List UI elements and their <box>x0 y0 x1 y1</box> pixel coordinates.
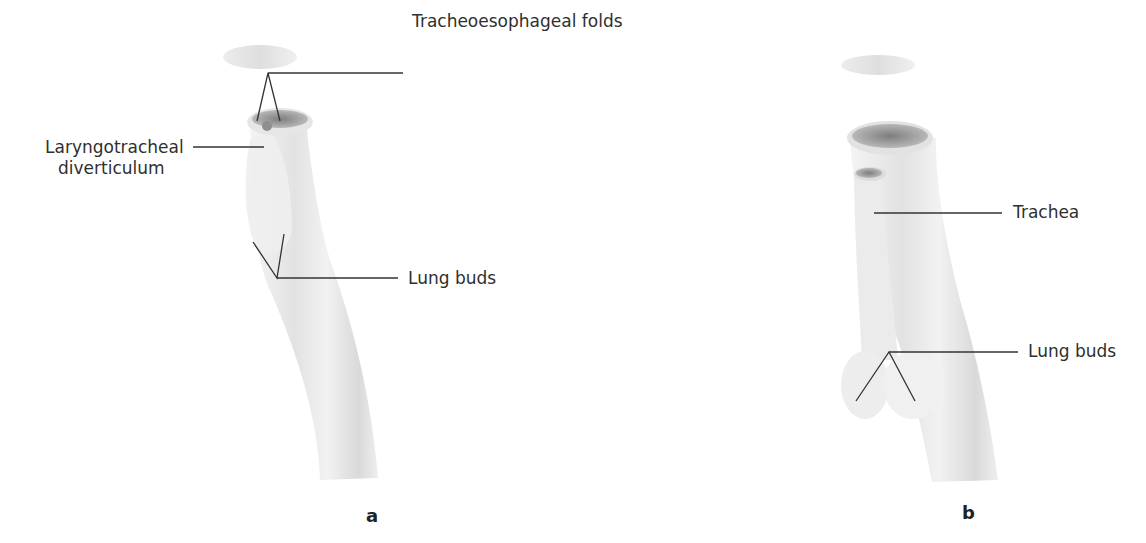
lung-bud-left-b <box>841 351 889 419</box>
esophagus-lumen-b <box>852 124 928 148</box>
label-lung-buds-b: Lung buds <box>1028 341 1116 362</box>
pharynx-cap-b <box>841 55 915 75</box>
pharynx-cap-a <box>223 45 297 69</box>
label-laryngotracheal-line2: diverticulum <box>58 158 165 179</box>
label-laryngotracheal-line1: Laryngotracheal <box>45 137 184 158</box>
panel-letter-a: a <box>366 505 378 526</box>
panel-b-illustration <box>841 55 998 482</box>
label-tracheoesophageal-folds: Tracheoesophageal folds <box>412 11 623 32</box>
label-trachea: Trachea <box>1013 202 1079 223</box>
panel-a-illustration <box>223 45 378 480</box>
diagram-artwork <box>0 0 1146 543</box>
panel-letter-b: b <box>962 502 975 523</box>
label-lung-buds-a: Lung buds <box>408 268 496 289</box>
lung-bud-right-b <box>883 351 943 419</box>
trachea-lumen-b <box>856 168 882 178</box>
